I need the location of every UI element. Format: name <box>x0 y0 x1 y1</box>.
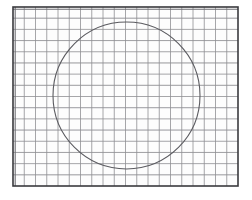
figure-root: Circle inscribed on graph paper <box>0 0 252 200</box>
graph-paper-figure <box>0 0 252 200</box>
